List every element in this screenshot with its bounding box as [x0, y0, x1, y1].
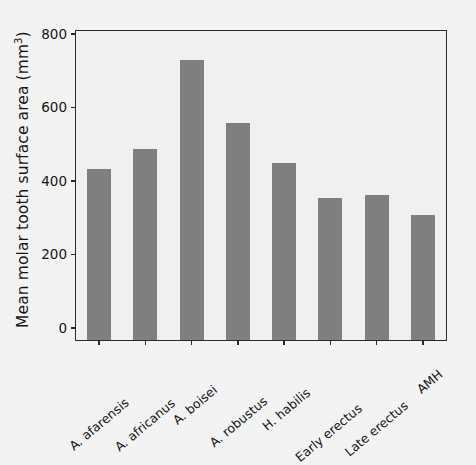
y-axis-title: Mean molar tooth surface area (mm3) [12, 32, 31, 329]
x-axis-tick-mark [422, 340, 424, 345]
y-axis-tick-label: 200 [41, 246, 71, 262]
x-axis-tick-mark [191, 340, 193, 345]
bar [365, 195, 389, 340]
y-axis-tick: 400 [41, 175, 76, 187]
y-axis-tick: 0 [58, 322, 76, 334]
x-axis-tick-mark [237, 340, 239, 345]
x-axis-tick-mark [145, 340, 147, 345]
x-axis-tick-mark [98, 340, 100, 345]
bar [318, 198, 342, 340]
y-axis-tick: 200 [41, 248, 76, 260]
bar [411, 215, 435, 340]
y-axis-tick-label: 400 [41, 173, 71, 189]
y-axis-tick: 800 [41, 28, 76, 40]
bar [180, 60, 204, 340]
y-axis-title-container: Mean molar tooth surface area (mm3) [0, 0, 44, 360]
bar-series [76, 31, 446, 340]
bar [272, 163, 296, 340]
x-axis-tick-mark [330, 340, 332, 345]
x-axis-tick-label: H. habilis [259, 385, 313, 434]
plot-area: 0200400600800 A. afarensisA. africanusA.… [75, 30, 447, 341]
bar [226, 123, 250, 340]
bar [87, 169, 111, 340]
x-axis-tick-mark [283, 340, 285, 345]
x-axis-tick-label: AMH [414, 366, 446, 396]
bar [133, 149, 157, 340]
y-axis-tick-label: 800 [41, 26, 71, 42]
y-axis-tick: 600 [41, 101, 76, 113]
x-axis-tick-mark [376, 340, 378, 345]
y-axis-title-closeparen: ) [14, 32, 32, 38]
y-axis-title-text: Mean molar tooth surface area (mm [14, 44, 32, 328]
y-axis-tick-label: 0 [58, 320, 71, 336]
y-axis-tick-label: 600 [41, 99, 71, 115]
y-axis-title-exponent: 3 [12, 38, 23, 44]
